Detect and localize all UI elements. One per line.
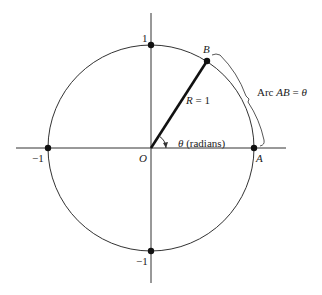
point-b <box>204 58 210 64</box>
radius-label: R = 1 <box>185 94 210 106</box>
tick-label-top: 1 <box>142 32 148 44</box>
tick-label-left: −1 <box>32 152 44 164</box>
label-origin: O <box>139 152 147 164</box>
angle-arrowhead <box>163 142 168 148</box>
point-bottom <box>148 248 154 254</box>
tick-label-bottom: −1 <box>136 255 148 267</box>
point-a <box>251 145 257 151</box>
label-b: B <box>203 43 210 55</box>
unit-circle-diagram: 1 −1 −1 O A B R = 1 θ (radians) Arc AB =… <box>0 0 322 295</box>
angle-label: θ (radians) <box>178 137 226 150</box>
arc-prefix: Arc <box>257 86 276 98</box>
arc-label: Arc AB = θ <box>257 86 307 98</box>
point-left <box>45 145 51 151</box>
arc-eq: = <box>290 86 302 98</box>
radius-eq: = 1 <box>193 94 210 106</box>
angle-text: (radians) <box>183 137 225 150</box>
label-a: A <box>255 152 263 164</box>
arc-var: AB <box>275 86 290 98</box>
arc-theta: θ <box>301 86 307 98</box>
arc-brace <box>212 54 264 146</box>
point-top <box>148 42 154 48</box>
